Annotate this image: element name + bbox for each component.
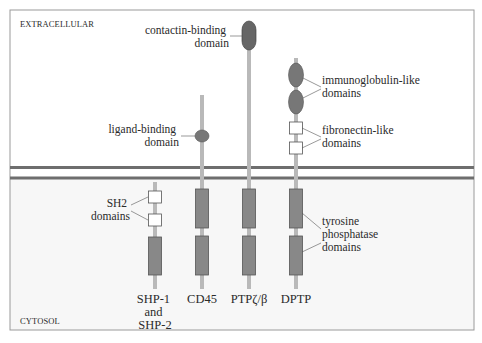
dptp-phosphatase-domain-1 — [290, 189, 303, 228]
immunoglobulin-domain-1 — [289, 63, 304, 87]
fibronectin-domain-2 — [290, 142, 303, 154]
protein-name-dptp: DPTP — [281, 292, 312, 306]
immunoglobulin-leader-2 — [303, 89, 321, 98]
sh2-domain-2 — [149, 214, 162, 226]
immunoglobulin-domain-2 — [289, 90, 304, 114]
annotation-contactin: contactin-binding domain — [145, 24, 242, 49]
immunoglobulin-label: immunoglobulin-like domains — [322, 74, 423, 99]
cytosol-label: CYTOSOL — [20, 316, 60, 326]
ptp-membrane-diagram: EXTRACELLULAR CYTOSOL SHP-1 and SHP-2 CD… — [0, 0, 482, 343]
extracellular-label: EXTRACELLULAR — [20, 19, 94, 29]
fibronectin-leader-1 — [302, 128, 321, 137]
cytosol-background — [10, 178, 474, 330]
annotation-immunoglobulin: immunoglobulin-like domains — [303, 74, 423, 99]
cd45-phosphatase-domain-2 — [196, 236, 209, 275]
plasma-membrane — [10, 168, 474, 179]
ptpzb-phosphatase-domain-1 — [243, 189, 256, 228]
contactin-binding-domain — [242, 21, 256, 50]
protein-name-cd45: CD45 — [187, 292, 217, 306]
contactin-binding-label: contactin-binding domain — [145, 24, 229, 49]
shp-phosphatase-domain — [149, 237, 162, 275]
annotation-ligand: ligand-binding domain — [108, 123, 195, 148]
immunoglobulin-leader-1 — [303, 78, 321, 87]
ptpzb-phosphatase-domain-2 — [243, 236, 256, 275]
dptp-phosphatase-domain-2 — [290, 236, 303, 275]
sh2-domain-1 — [149, 191, 162, 203]
cd45-phosphatase-domain-1 — [196, 189, 209, 228]
fibronectin-label: fibronectin-like domains — [322, 124, 396, 149]
ligand-binding-domain — [195, 130, 209, 142]
fibronectin-domain-1 — [290, 122, 303, 134]
annotation-fibronectin: fibronectin-like domains — [302, 124, 396, 149]
ligand-binding-label: ligand-binding domain — [108, 123, 179, 148]
fibronectin-leader-2 — [302, 139, 321, 148]
protein-name-ptpzb: PTPζ/β — [231, 292, 268, 306]
